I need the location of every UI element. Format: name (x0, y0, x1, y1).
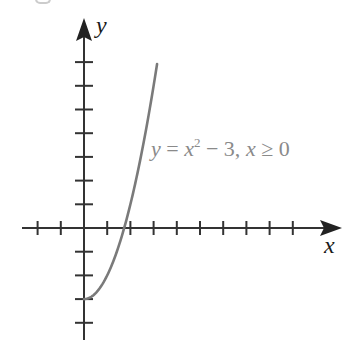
y-axis-label: y (96, 12, 107, 39)
equation-condition-var: x (246, 136, 256, 161)
x-axis-label: x (324, 232, 335, 259)
equation-lhs: y (151, 136, 161, 161)
equation-constant: − 3, (200, 136, 245, 161)
graph-figure (0, 0, 348, 356)
equation-label: y = x2 − 3, x ≥ 0 (151, 135, 290, 162)
equation-condition: ≥ 0 (256, 136, 290, 161)
parabola-curve (84, 64, 157, 299)
equation-equals: = (161, 136, 184, 161)
equation-base: x (184, 136, 194, 161)
